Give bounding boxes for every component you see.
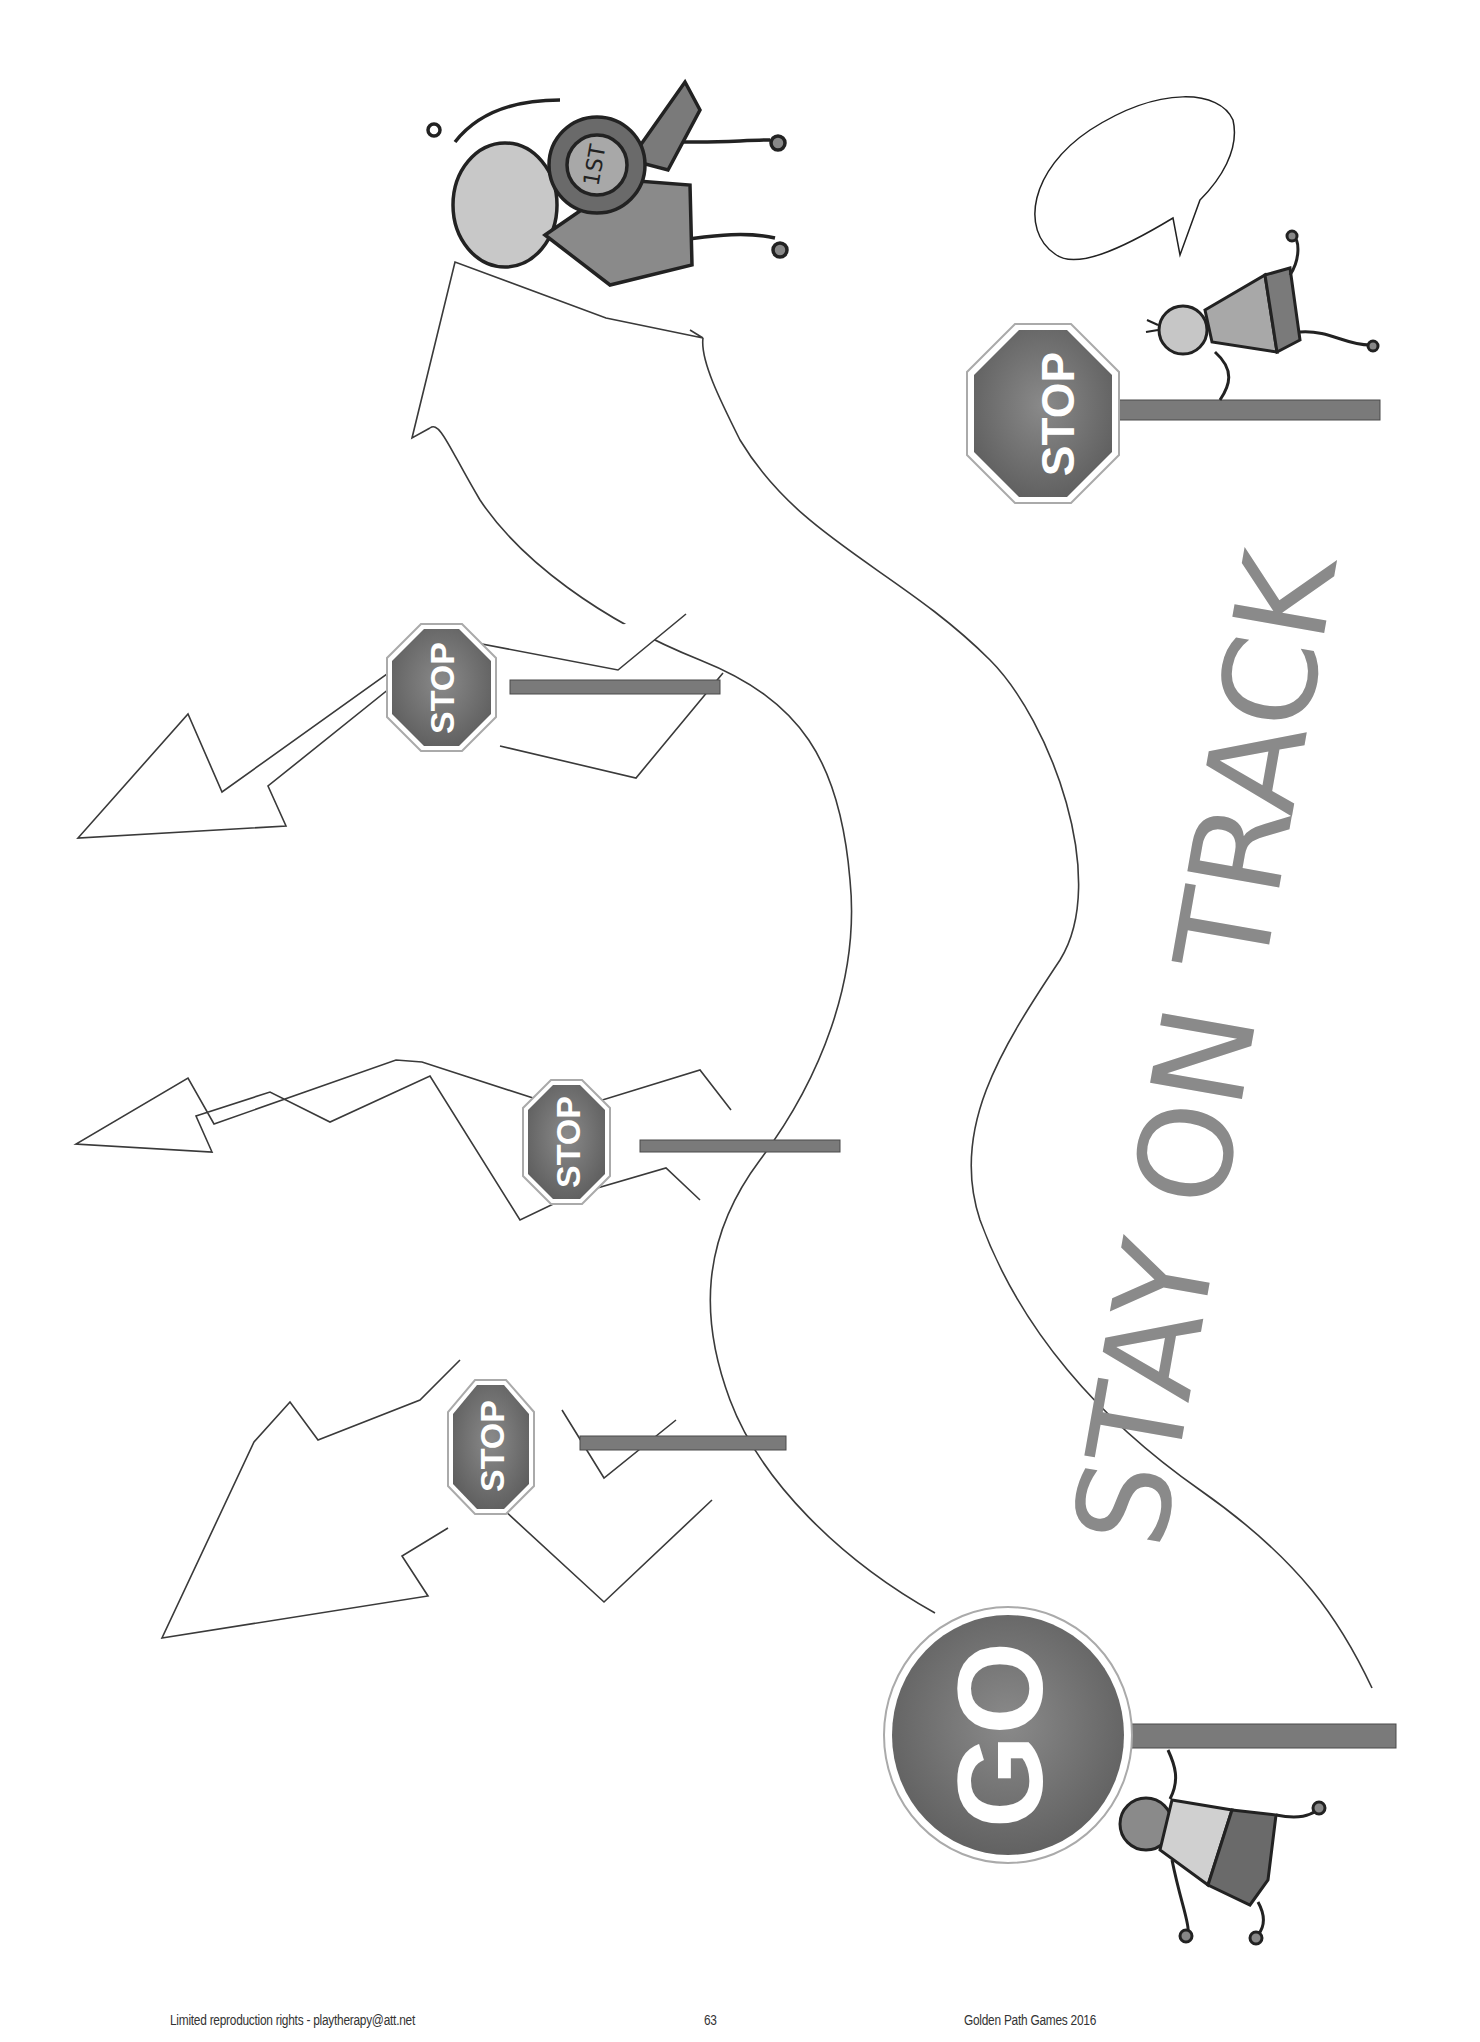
go-sign-label: GO [933,1642,1067,1829]
stop-sign-middle: STOP [523,1080,610,1204]
title-stay-on-track: STAY ON TRACK [1045,539,1367,1556]
winner-character: 1ST [428,82,787,285]
footer-page-number: 63 [704,2012,717,2028]
finish-arrowhead [412,262,703,438]
stop-sign-upper: STOP [387,624,496,751]
pole-middle [640,1140,840,1152]
stop-sign-lower: STOP [448,1380,534,1514]
pole-go [1130,1724,1396,1748]
footer-publisher: Golden Path Games 2016 [964,2012,1096,2028]
game-board: STOP STOP STOP STOP GO STAY ON TRACK [0,0,1480,2042]
stop-sign-label: STOP [423,642,461,734]
detour-arrow-middle [76,1060,731,1220]
go-sign: GO [884,1607,1132,1863]
stop-sign-label: STOP [1032,352,1084,476]
pole-lower [580,1436,786,1450]
detour-arrow-lower [162,1360,712,1638]
pole-top-right [1110,400,1380,420]
stop-sign-top-right: STOP [967,324,1119,503]
girl-character [1146,231,1378,400]
pole-upper [510,680,720,694]
stop-sign-label: STOP [473,1400,511,1492]
stop-sign-label: STOP [549,1096,587,1188]
speech-bubble [1035,97,1235,260]
footer-copyright: Limited reproduction rights - playtherap… [170,2012,415,2028]
boy-character [1120,1750,1325,1944]
page-title: STAY ON TRACK [1045,539,1367,1556]
